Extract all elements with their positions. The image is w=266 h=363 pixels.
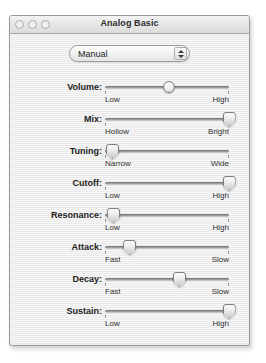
slider-thumb[interactable] — [223, 112, 236, 127]
slider-end-labels: LowHigh — [105, 95, 229, 104]
slider-max-label: High — [213, 95, 229, 104]
preset-popup-button[interactable]: Manual — [69, 45, 190, 62]
slider-row: Volume:LowHigh — [10, 78, 249, 110]
slider-thumb[interactable] — [223, 304, 236, 319]
slider-thumb[interactable] — [223, 176, 236, 191]
app-window: Analog Basic Manual Volume:LowHighMix:Ho… — [9, 15, 250, 346]
slider-list: Volume:LowHighMix:HollowBrightTuning:Nar… — [10, 78, 249, 334]
slider-track[interactable] — [105, 214, 229, 217]
slider-track[interactable] — [105, 118, 229, 121]
slider-control[interactable]: LowHigh — [105, 302, 229, 334]
slider-label: Volume: — [10, 82, 102, 92]
slider-tick-min — [105, 91, 106, 94]
slider-max-label: High — [213, 191, 229, 200]
slider-thumb[interactable] — [123, 240, 136, 255]
slider-min-label: Fast — [105, 287, 121, 296]
slider-thumb-shape — [223, 176, 236, 191]
slider-control[interactable]: LowHigh — [105, 206, 229, 238]
slider-end-labels: LowHigh — [105, 319, 229, 328]
slider-control[interactable]: FastSlow — [105, 270, 229, 302]
slider-end-labels: FastSlow — [105, 255, 229, 264]
slider-label: Mix: — [10, 114, 102, 124]
slider-thumb[interactable] — [173, 272, 186, 287]
slider-thumb[interactable] — [163, 81, 175, 93]
slider-tick-min — [105, 219, 106, 222]
slider-label: Cutoff: — [10, 178, 102, 188]
slider-track[interactable] — [105, 182, 229, 185]
slider-end-labels: NarrowWide — [105, 159, 229, 168]
slider-tick-min — [105, 187, 106, 190]
slider-tick-min — [105, 251, 106, 254]
window-body: Manual Volume:LowHighMix:HollowBrightTun… — [10, 34, 249, 344]
slider-track[interactable] — [105, 310, 229, 313]
slider-track[interactable] — [105, 150, 229, 153]
slider-control[interactable]: LowHigh — [105, 78, 229, 110]
slider-label: Tuning: — [10, 146, 102, 156]
slider-row: Tuning:NarrowWide — [10, 142, 249, 174]
slider-tick-max — [228, 155, 229, 158]
slider-end-labels: LowHigh — [105, 223, 229, 232]
slider-row: Sustain:LowHigh — [10, 302, 249, 334]
slider-control[interactable]: FastSlow — [105, 238, 229, 270]
slider-min-label: Low — [105, 223, 120, 232]
slider-max-label: Wide — [211, 159, 229, 168]
slider-control[interactable]: HollowBright — [105, 110, 229, 142]
slider-min-label: Hollow — [105, 127, 129, 136]
chevron-updown-icon[interactable] — [174, 47, 187, 60]
slider-label: Decay: — [10, 274, 102, 284]
window-titlebar[interactable]: Analog Basic — [10, 16, 249, 34]
slider-row: Mix:HollowBright — [10, 110, 249, 142]
slider-end-labels: HollowBright — [105, 127, 229, 136]
slider-tick-max — [228, 91, 229, 94]
slider-tick-min — [105, 283, 106, 286]
slider-row: Cutoff:LowHigh — [10, 174, 249, 206]
slider-tick-max — [228, 219, 229, 222]
slider-tick-max — [228, 251, 229, 254]
slider-label: Sustain: — [10, 306, 102, 316]
slider-row: Decay:FastSlow — [10, 270, 249, 302]
slider-max-label: Slow — [212, 255, 229, 264]
slider-thumb[interactable] — [107, 208, 120, 223]
chevron-up-icon — [178, 50, 184, 53]
slider-label: Attack: — [10, 242, 102, 252]
slider-control[interactable]: LowHigh — [105, 174, 229, 206]
slider-max-label: High — [213, 223, 229, 232]
preset-popup-value: Manual — [78, 49, 108, 59]
preset-popup-row: Manual — [10, 45, 249, 62]
slider-min-label: Low — [105, 191, 120, 200]
slider-max-label: Bright — [208, 127, 229, 136]
slider-min-label: Low — [105, 95, 120, 104]
slider-min-label: Low — [105, 319, 120, 328]
slider-max-label: Slow — [212, 287, 229, 296]
slider-row: Attack:FastSlow — [10, 238, 249, 270]
screenshot-root: Analog Basic Manual Volume:LowHighMix:Ho… — [0, 0, 266, 363]
slider-thumb[interactable] — [106, 144, 119, 159]
slider-label: Resonance: — [10, 210, 102, 220]
slider-thumb-shape — [223, 304, 236, 319]
slider-tick-min — [105, 315, 106, 318]
slider-row: Resonance:LowHigh — [10, 206, 249, 238]
slider-track[interactable] — [105, 278, 229, 281]
slider-tick-max — [228, 283, 229, 286]
slider-end-labels: FastSlow — [105, 287, 229, 296]
slider-min-label: Narrow — [105, 159, 131, 168]
slider-thumb-shape — [107, 208, 120, 223]
slider-thumb-shape — [173, 272, 186, 287]
slider-max-label: High — [213, 319, 229, 328]
slider-thumb-shape — [123, 240, 136, 255]
chevron-down-icon — [178, 55, 184, 58]
slider-control[interactable]: NarrowWide — [105, 142, 229, 174]
slider-thumb-shape — [223, 112, 236, 127]
slider-min-label: Fast — [105, 255, 121, 264]
window-title: Analog Basic — [10, 18, 249, 28]
slider-thumb-shape — [106, 144, 119, 159]
slider-end-labels: LowHigh — [105, 191, 229, 200]
slider-tick-min — [105, 123, 106, 126]
